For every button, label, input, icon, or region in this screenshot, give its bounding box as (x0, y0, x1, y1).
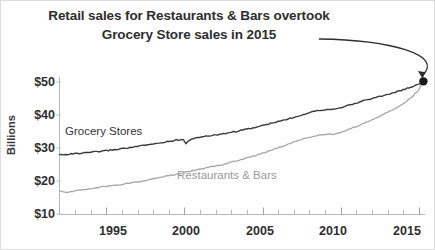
axis-lines (60, 77, 426, 215)
series-line-grocery-stores (60, 81, 424, 155)
series-line-restaurants-bars (60, 81, 424, 192)
title-arrow-icon (319, 39, 427, 75)
chart-figure: Retail sales for Restaurants & Bars over… (0, 0, 435, 250)
x-axis-minor-ticks (76, 210, 420, 215)
crossover-point-marker (419, 77, 427, 85)
plot-area (1, 1, 435, 250)
